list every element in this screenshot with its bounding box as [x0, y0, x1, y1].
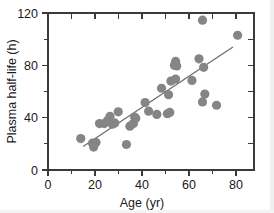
regression-line	[83, 47, 233, 146]
data-point	[200, 90, 209, 99]
data-point	[141, 98, 150, 107]
data-point	[212, 101, 221, 110]
data-point	[144, 107, 153, 116]
data-point	[122, 140, 131, 149]
data-point	[187, 76, 196, 85]
data-point	[110, 118, 119, 127]
x-axis-top-ticks	[72, 13, 237, 19]
y-axis-right-ticks	[248, 39, 254, 144]
data-point	[91, 138, 100, 147]
data-point	[171, 57, 180, 66]
right-edge-shadow	[270, 0, 274, 213]
data-point	[76, 134, 85, 143]
y-tick-label-40: 40	[24, 111, 38, 125]
data-point	[114, 107, 123, 116]
data-point	[198, 16, 207, 25]
y-tick-label-120: 120	[17, 7, 38, 21]
y-tick-label-80: 80	[24, 59, 38, 73]
data-point	[164, 90, 173, 99]
data-point	[199, 63, 208, 72]
bottom-edge-shadow	[0, 210, 274, 213]
x-tick-label-40: 40	[135, 178, 149, 192]
data-point	[152, 110, 161, 119]
data-point	[165, 108, 174, 117]
data-point	[157, 84, 166, 93]
data-point	[194, 54, 203, 63]
figure-container: 0 40 80 120 0 20 40 60 80 Age (yr) Plasm…	[0, 0, 274, 213]
x-tick-label-20: 20	[88, 178, 102, 192]
y-axis-title: Plasma half-life (h)	[5, 39, 19, 143]
plot-frame	[48, 13, 254, 170]
x-tick-label-60: 60	[182, 178, 196, 192]
x-axis-title: Age (yr)	[120, 196, 164, 210]
x-tick-label-80: 80	[229, 178, 243, 192]
scatter-plot: 0 40 80 120 0 20 40 60 80 Age (yr) Plasm…	[0, 0, 274, 213]
data-point	[131, 114, 140, 123]
data-points-group	[76, 16, 242, 152]
data-point	[198, 97, 207, 106]
x-axis-major-ticks	[48, 170, 236, 176]
data-point	[171, 74, 180, 83]
y-tick-label-0: 0	[31, 164, 38, 178]
x-tick-label-0: 0	[45, 178, 52, 192]
data-point	[233, 31, 242, 40]
